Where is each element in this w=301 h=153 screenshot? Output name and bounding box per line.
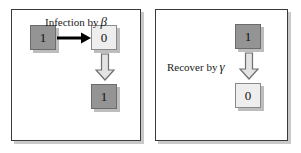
gamma-symbol: γ: [217, 59, 224, 74]
source-infected-cell-value: 1: [40, 31, 47, 44]
result-infected-cell-value: 1: [101, 90, 108, 103]
infection-caption: Infection byβ: [45, 14, 107, 30]
infection-state-change-arrow: [95, 54, 115, 81]
result-infected-cell: 1: [91, 84, 117, 109]
recovery-caption: Recover byγ: [167, 59, 225, 75]
infected-cell: 1: [235, 24, 261, 49]
recovery-state-change-arrow: [239, 53, 259, 80]
recovered-cell: 0: [235, 83, 261, 108]
infection-caption-text: Infection by: [45, 16, 98, 28]
target-susceptible-cell-value: 0: [101, 31, 108, 44]
beta-symbol: β: [98, 14, 106, 29]
infection-transmission-arrow: [57, 31, 93, 45]
figure-canvas: Infection byβ 1 0 1 Recover byγ 1 0: [0, 0, 301, 153]
recovery-panel: [155, 9, 288, 141]
recovered-cell-value: 0: [245, 89, 252, 102]
recovery-caption-text: Recover by: [167, 61, 217, 73]
infected-cell-value: 1: [245, 30, 252, 43]
